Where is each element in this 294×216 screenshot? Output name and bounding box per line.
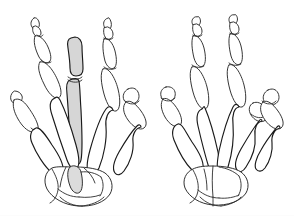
right-hand-little-finger <box>161 87 182 127</box>
bottom-rule <box>0 215 294 216</box>
left-hand-ring-finger <box>31 18 61 98</box>
right-hand-group <box>161 15 283 206</box>
left-hand-group <box>11 18 147 206</box>
hand-skeleton-figure: Skeletal anatomy of both hands, dorsal v… <box>0 0 294 216</box>
left-hand-index-finger <box>101 18 120 111</box>
right-hand-thumb <box>261 89 284 129</box>
left-hand-thumb <box>123 88 146 129</box>
left-hand-carpals <box>45 166 112 206</box>
left-hand-little-finger <box>11 91 40 132</box>
right-hand-ring-finger <box>190 17 209 109</box>
right-hand-middle-finger <box>227 15 246 107</box>
right-hand-carpals <box>184 166 248 206</box>
hand-skeleton-drawing <box>0 0 294 216</box>
